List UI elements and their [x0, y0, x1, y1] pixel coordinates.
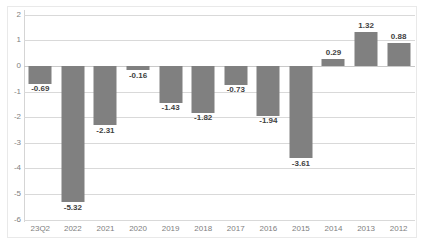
- bar-slot: -1.94: [252, 15, 285, 220]
- x-axis-tick-label: 2016: [252, 222, 285, 236]
- y-axis-tick-label: -5: [1, 190, 21, 198]
- y-axis-tick-label: -3: [1, 139, 21, 147]
- x-axis-tick-label: 2017: [219, 222, 252, 236]
- bar-value-label: 0.88: [391, 33, 407, 41]
- bar-slot: -3.61: [285, 15, 318, 220]
- y-axis-tick-label: -2: [1, 113, 21, 121]
- x-axis-tick-labels: 23Q2202220212020201920182017201620152014…: [24, 222, 415, 236]
- bar-value-label: -1.43: [161, 104, 179, 112]
- bar-value-label: -2.31: [96, 127, 114, 135]
- bar-value-label: -1.82: [194, 114, 212, 122]
- x-axis-tick-label: 23Q2: [24, 222, 57, 236]
- bar-value-label: 0.29: [326, 49, 342, 57]
- bar[interactable]: [127, 66, 150, 70]
- bar[interactable]: [192, 66, 215, 113]
- bar[interactable]: [257, 66, 280, 116]
- bar-value-label: -0.69: [31, 85, 49, 93]
- y-axis-tick-label: 0: [1, 62, 21, 70]
- x-axis-tick-label: 2012: [382, 222, 415, 236]
- bar[interactable]: [61, 66, 84, 202]
- bars-layer: -0.69-5.32-2.31-0.16-1.43-1.82-0.73-1.94…: [24, 15, 415, 220]
- y-axis-tick-labels: 210-1-2-3-4-5-6: [0, 15, 21, 220]
- bar-slot: -1.43: [154, 15, 187, 220]
- bar-slot: 1.32: [350, 15, 383, 220]
- bar-chart: 210-1-2-3-4-5-6 -0.69-5.32-2.31-0.16-1.4…: [0, 0, 427, 246]
- bar[interactable]: [289, 66, 312, 158]
- gridline: [24, 220, 415, 221]
- y-axis-tick-label: 2: [1, 11, 21, 19]
- bar[interactable]: [159, 66, 182, 103]
- bar-slot: 0.88: [382, 15, 415, 220]
- bar[interactable]: [355, 32, 378, 66]
- y-axis-tick-label: -1: [1, 88, 21, 96]
- bar-slot: -0.16: [122, 15, 155, 220]
- x-axis-tick-label: 2022: [57, 222, 90, 236]
- bar-slot: -2.31: [89, 15, 122, 220]
- bar-slot: -0.73: [219, 15, 252, 220]
- x-axis-tick-label: 2014: [317, 222, 350, 236]
- x-axis-tick-label: 2021: [89, 222, 122, 236]
- bar-slot: -1.82: [187, 15, 220, 220]
- x-axis-tick-label: 2018: [187, 222, 220, 236]
- y-axis-tick-label: -6: [1, 216, 21, 224]
- bar[interactable]: [322, 59, 345, 66]
- x-axis-tick-label: 2013: [350, 222, 383, 236]
- bar[interactable]: [29, 66, 52, 84]
- bar-slot: -0.69: [24, 15, 57, 220]
- bar[interactable]: [224, 66, 247, 85]
- bar[interactable]: [387, 43, 410, 66]
- y-axis-tick-label: -4: [1, 164, 21, 172]
- y-axis-tick-label: 1: [1, 36, 21, 44]
- bar-value-label: -0.73: [227, 86, 245, 94]
- bar-slot: 0.29: [317, 15, 350, 220]
- x-axis-tick-label: 2015: [285, 222, 318, 236]
- bar-value-label: -3.61: [292, 160, 310, 168]
- x-axis-tick-label: 2020: [122, 222, 155, 236]
- x-axis-tick-label: 2019: [154, 222, 187, 236]
- bar-value-label: -0.16: [129, 72, 147, 80]
- bar[interactable]: [94, 66, 117, 125]
- bar-value-label: -5.32: [64, 204, 82, 212]
- bar-value-label: -1.94: [259, 117, 277, 125]
- bar-value-label: 1.32: [358, 22, 374, 30]
- bar-slot: -5.32: [57, 15, 90, 220]
